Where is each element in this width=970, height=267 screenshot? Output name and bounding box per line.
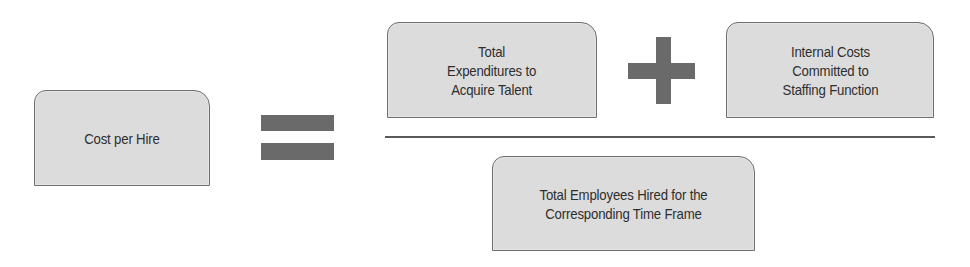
total-expenditures-box: Total Expenditures to Acquire Talent (387, 22, 597, 118)
total-expenditures-label: Total Expenditures to Acquire Talent (447, 42, 536, 99)
internal-costs-label: Internal Costs Committed to Staffing Fun… (782, 42, 878, 99)
cost-per-hire-label: Cost per Hire (84, 129, 159, 148)
total-employees-hired-box: Total Employees Hired for the Correspond… (492, 156, 755, 251)
equals-top-bar (261, 115, 334, 131)
cost-per-hire-box: Cost per Hire (34, 90, 210, 186)
internal-costs-box: Internal Costs Committed to Staffing Fun… (726, 22, 934, 118)
equals-bottom-bar (261, 143, 334, 160)
fraction-divider (385, 136, 935, 138)
plus-horizontal-bar (628, 63, 695, 79)
total-employees-hired-label: Total Employees Hired for the Correspond… (539, 185, 707, 223)
